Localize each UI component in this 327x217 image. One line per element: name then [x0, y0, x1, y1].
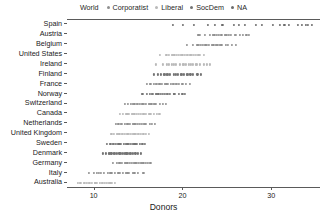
data-point: [185, 63, 187, 65]
data-point: [126, 162, 128, 164]
data-point: [149, 83, 151, 85]
y-axis-tick-united-kingdom: United Kingdom: [11, 128, 67, 137]
legend-item-na[interactable]: NA: [231, 4, 247, 11]
data-point: [136, 142, 138, 144]
data-point: [221, 24, 223, 26]
data-point: [214, 24, 216, 26]
y-axis-label: Belgium: [36, 40, 64, 47]
data-point: [105, 152, 107, 154]
data-point: [142, 172, 144, 174]
data-point: [140, 113, 142, 115]
data-point: [157, 93, 159, 95]
data-point: [109, 142, 111, 144]
data-point: [227, 34, 229, 36]
legend-item-label: NA: [237, 4, 247, 11]
data-point: [114, 172, 116, 174]
data-point: [180, 73, 182, 75]
data-point: [113, 133, 115, 135]
legend-item-socdem[interactable]: SocDem: [190, 4, 224, 11]
data-point: [207, 24, 209, 26]
data-point: [169, 93, 171, 95]
data-point: [261, 24, 263, 26]
data-point: [100, 172, 102, 174]
data-point: [148, 133, 150, 135]
data-point: [128, 172, 130, 174]
y-axis-label: Italy: [49, 169, 64, 176]
y-axis-label: Denmark: [33, 149, 64, 156]
data-point: [121, 162, 123, 164]
data-point: [183, 73, 185, 75]
y-axis-tick-united-states: United States: [19, 49, 67, 58]
data-point: [120, 142, 122, 144]
data-point: [88, 172, 90, 174]
data-point: [121, 123, 123, 125]
data-point: [204, 34, 206, 36]
data-point: [142, 162, 144, 164]
data-point: [220, 44, 222, 46]
y-tick-mark: [64, 103, 67, 104]
y-axis-label: Austria: [40, 30, 64, 37]
legend-item-label: Liberal: [161, 4, 183, 11]
y-axis-label: Netherlands: [23, 119, 64, 126]
legend-title: World: [80, 4, 99, 11]
y-tick-mark: [64, 142, 67, 143]
data-point: [185, 83, 187, 85]
y-axis-label: Spain: [44, 20, 64, 27]
data-point: [159, 53, 161, 55]
data-point: [279, 24, 281, 26]
data-point: [112, 162, 114, 164]
legend-marker-icon: [107, 6, 110, 9]
y-axis-tick-ireland: Ireland: [40, 59, 67, 68]
y-axis-tick-switzerland: Switzerland: [25, 99, 67, 108]
data-point: [140, 152, 142, 154]
y-axis-label: United States: [19, 50, 64, 57]
data-point: [209, 34, 211, 36]
data-point: [93, 172, 95, 174]
y-axis-tick-norway: Norway: [38, 89, 67, 98]
y-axis-tick-australia: Australia: [34, 178, 67, 187]
data-point: [199, 34, 201, 36]
y-axis-tick-sweden: Sweden: [36, 138, 67, 147]
data-point: [199, 53, 201, 55]
data-point: [179, 63, 181, 65]
data-point: [133, 172, 135, 174]
y-axis-label: Ireland: [40, 60, 64, 67]
x-axis-title: Donors: [0, 203, 327, 212]
y-tick-mark: [64, 93, 67, 94]
data-point: [128, 113, 130, 115]
data-point: [133, 103, 135, 105]
data-point: [116, 162, 118, 164]
legend-item-liberal[interactable]: Liberal: [155, 4, 183, 11]
data-point: [124, 123, 126, 125]
y-axis-tick-france: France: [40, 79, 67, 88]
y-axis-label: Finland: [38, 70, 64, 77]
data-point: [243, 24, 245, 26]
y-tick-mark: [64, 152, 67, 153]
legend-marker-icon: [155, 6, 158, 9]
y-axis-label: Canada: [37, 109, 64, 116]
data-point: [124, 133, 126, 135]
data-point: [124, 103, 126, 105]
y-axis-label: Germany: [32, 159, 64, 166]
y-axis-tick-spain: Spain: [44, 19, 67, 28]
data-point: [146, 83, 148, 85]
data-point: [141, 93, 143, 95]
data-point: [189, 73, 191, 75]
data-point: [91, 182, 93, 184]
data-point: [153, 73, 155, 75]
data-point: [306, 24, 308, 26]
data-point: [283, 24, 285, 26]
data-point: [106, 142, 108, 144]
data-point: [144, 142, 146, 144]
x-axis-tick-label: 30: [267, 192, 275, 199]
data-point: [227, 44, 229, 46]
data-point: [115, 142, 117, 144]
data-point: [235, 44, 237, 46]
data-point: [155, 63, 157, 65]
legend-item-corporatist[interactable]: Corporatist: [107, 4, 149, 11]
data-point: [192, 44, 194, 46]
scatter-plot-figure: World CorporatistLiberalSocDemNA SpainAu…: [0, 0, 327, 217]
data-point: [133, 113, 135, 115]
legend-marker-icon: [231, 6, 234, 9]
data-point: [301, 24, 303, 26]
